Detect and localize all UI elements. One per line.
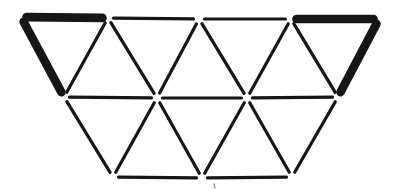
matchstick-right-slant-edge <box>341 24 377 92</box>
matchstick-upper-diagonal-2 <box>111 23 154 94</box>
matchstick-lower-diagonal-2 <box>116 103 155 172</box>
matchstick-top-edge-1 <box>27 17 103 18</box>
matchstick-upper-diagonal-6 <box>294 24 335 93</box>
matchstick-middle-edge-1 <box>70 97 152 98</box>
matchstick-upper-diagonal-5 <box>250 24 289 93</box>
matchstick-upper-diagonal-4 <box>202 24 244 94</box>
matchstick-upper-diagonal-1 <box>67 23 106 92</box>
matchstick-left-slant-edge <box>24 22 62 92</box>
matchstick-lower-diagonal-3 <box>160 103 200 173</box>
matchstick-bottom-edge-1 <box>119 177 197 178</box>
matchstick-lower-diagonal-1 <box>67 102 110 173</box>
stray-print-mark <box>214 184 215 188</box>
matchstick-middle-edge-3 <box>253 97 333 98</box>
figure-canvas <box>0 0 399 191</box>
matchstick-lower-diagonal-4 <box>205 103 245 173</box>
matchstick-lower-diagonal-6 <box>295 102 336 172</box>
matchstick-bottom-edge-2 <box>208 177 287 178</box>
matchstick-top-edge-2 <box>114 18 194 19</box>
triangle-matchstick-figure <box>0 0 399 191</box>
matchstick-upper-diagonal-3 <box>160 24 197 93</box>
matchstick-lower-diagonal-5 <box>250 103 290 172</box>
